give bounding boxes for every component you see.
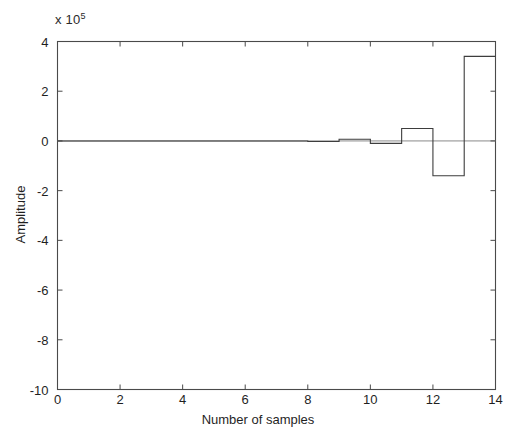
x-axis-title: Number of samples xyxy=(0,412,516,427)
x-axis-ticks xyxy=(58,42,496,390)
data-series-amplitude xyxy=(58,56,496,175)
x-tick-label: 10 xyxy=(363,392,377,407)
x-tick-label: 14 xyxy=(488,392,502,407)
chart-figure: x 105 02468101214 -10-8-6-4-2024 Number … xyxy=(0,0,516,443)
x-tick-label: 12 xyxy=(426,392,440,407)
y-axis-title: Amplitude xyxy=(13,125,28,305)
x-tick-label: 6 xyxy=(242,392,249,407)
x-tick-label: 8 xyxy=(304,392,311,407)
y-axis-ticks xyxy=(58,42,496,390)
axes-box xyxy=(58,42,496,390)
y-tick-label: -10 xyxy=(0,382,49,397)
y-tick-label: 2 xyxy=(0,84,49,99)
plot-canvas xyxy=(0,0,516,443)
y-tick-label: -8 xyxy=(0,332,49,347)
x-tick-label: 4 xyxy=(179,392,186,407)
x-tick-label: 2 xyxy=(116,392,123,407)
x-tick-label: 0 xyxy=(54,392,61,407)
y-tick-label: 4 xyxy=(0,34,49,49)
